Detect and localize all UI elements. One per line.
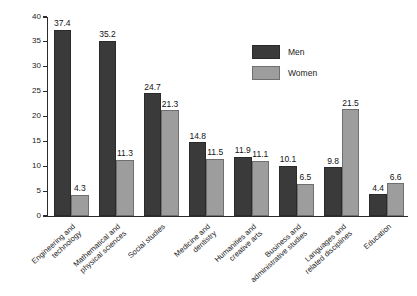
x-axis-labels: Engineering andtechnologyMathematical an… xyxy=(0,0,417,296)
x-axis-label-line1: Social studies xyxy=(126,222,167,260)
bar-chart: Number of courses taken (thousands) 0510… xyxy=(0,0,417,296)
x-axis-label-line1: Education xyxy=(362,222,393,251)
